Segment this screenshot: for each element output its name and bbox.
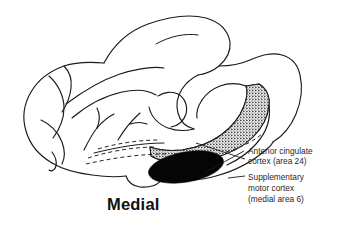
brain-medial-view-figure: Anterior cingulate cortex (area 24) Supp… bbox=[0, 0, 360, 226]
branching-sulcus-stem bbox=[84, 128, 97, 150]
cingulate-band-tip-hook bbox=[202, 84, 246, 100]
medial-long-arc bbox=[66, 67, 164, 104]
superior-dome-outline bbox=[104, 16, 230, 75]
label-anterior-cingulate: Anterior cingulate cortex (area 24) bbox=[248, 146, 313, 166]
anterior-cingulate-label-line2: cortex (area 24) bbox=[248, 156, 307, 166]
leader-line-sma-lower bbox=[228, 176, 245, 178]
secondary-sulcus-right-branch bbox=[130, 123, 147, 125]
supplementary-motor-label-line2: motor cortex bbox=[248, 183, 295, 193]
frontal-sulcus-long-arc bbox=[49, 76, 64, 138]
label-supplementary-motor: Supplementary motor cortex (medial area … bbox=[248, 172, 305, 204]
paracingulate-arc bbox=[197, 100, 202, 118]
ventral-base-outline bbox=[52, 163, 126, 177]
supplementary-motor-label-line3: (medial area 6) bbox=[248, 194, 304, 204]
dome-inner-sulcus bbox=[156, 34, 198, 44]
secondary-sulcus-right bbox=[118, 113, 140, 140]
anterior-cingulate-label-line1: Anterior cingulate bbox=[248, 146, 313, 156]
supplementary-motor-label-line1: Supplementary bbox=[248, 172, 305, 182]
view-title-medial: Medial bbox=[107, 195, 160, 213]
central-mass-outline bbox=[177, 75, 198, 129]
